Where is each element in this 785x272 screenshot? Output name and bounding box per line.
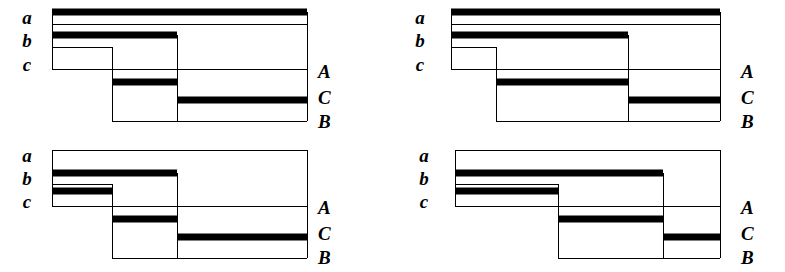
unit-label-C: C <box>318 224 338 243</box>
marker-bar-b-top <box>52 170 177 177</box>
panel-top-left: abcACB <box>0 0 392 136</box>
lane-label-c: c <box>411 55 429 74</box>
marker-bar-a-top <box>451 9 720 16</box>
marker-bar-b-top <box>455 170 663 177</box>
marker-bar-A-mark <box>112 79 177 86</box>
marker-bar-c-top <box>52 188 112 195</box>
panel-bottom-right: abcACB <box>393 136 785 272</box>
marker-bar-A-mark <box>112 216 177 223</box>
unit-label-C: C <box>741 88 761 107</box>
panel-body-fill <box>52 150 307 258</box>
unit-label-C: C <box>741 224 761 243</box>
panel-bottom-right-diagram <box>393 136 785 272</box>
marker-bar-c-top <box>455 188 558 195</box>
lane-label-b: b <box>415 169 433 188</box>
panel-body-fill <box>451 12 720 121</box>
lane-label-c: c <box>415 192 433 211</box>
marker-bar-A-mark <box>558 216 663 223</box>
marker-bar-C-mark <box>177 234 307 241</box>
marker-bar-C-mark <box>628 97 720 104</box>
lane-label-b: b <box>18 169 36 188</box>
marker-bar-A-mark <box>496 79 628 86</box>
marker-bar-a-top <box>52 9 307 16</box>
unit-label-A: A <box>318 62 338 81</box>
panel-top-right-diagram <box>393 0 785 136</box>
unit-label-A: A <box>318 198 338 217</box>
lane-label-b: b <box>411 31 429 50</box>
lane-label-a: a <box>18 8 36 27</box>
lane-label-a: a <box>18 146 36 165</box>
lane-label-a: a <box>411 8 429 27</box>
lane-label-b: b <box>18 31 36 50</box>
unit-label-C: C <box>318 88 338 107</box>
unit-label-B: B <box>741 248 761 267</box>
unit-label-B: B <box>318 112 338 131</box>
panel-body-fill <box>52 12 307 121</box>
marker-bar-b-top <box>451 32 628 39</box>
figure-root: abcACBabcACBabcACBabcACB <box>0 0 785 272</box>
unit-label-B: B <box>318 248 338 267</box>
lane-label-a: a <box>415 146 433 165</box>
marker-bar-C-mark <box>177 97 307 104</box>
unit-label-A: A <box>741 62 761 81</box>
panel-body-fill <box>455 150 720 258</box>
panel-top-right: abcACB <box>393 0 785 136</box>
unit-label-B: B <box>741 112 761 131</box>
panel-bottom-left: abcACB <box>0 136 392 272</box>
lane-label-c: c <box>18 55 36 74</box>
marker-bar-b-top <box>52 32 177 39</box>
lane-label-c: c <box>18 192 36 211</box>
unit-label-A: A <box>741 198 761 217</box>
marker-bar-C-mark <box>663 234 720 241</box>
